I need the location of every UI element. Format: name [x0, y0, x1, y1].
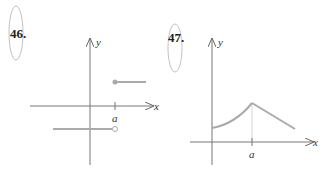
tick-label-a: a [249, 148, 255, 160]
closed-dot [113, 80, 118, 85]
problem-number-47: 47. [168, 30, 184, 45]
x-axis-label: x [153, 100, 159, 112]
graph-46: 46. y x a [9, 6, 159, 165]
y-axis-label: y [217, 36, 223, 48]
curve-left [212, 103, 252, 128]
line-right [252, 103, 295, 129]
y-axis-label: y [95, 36, 101, 48]
problem-number-46: 46. [10, 26, 26, 41]
diagram-canvas: 46. y x a 47. y x a [0, 0, 320, 175]
x-axis-label: x [312, 136, 318, 148]
open-circle [113, 127, 118, 132]
tick-label-a: a [112, 112, 118, 124]
graph-47: 47. y x a [168, 24, 318, 165]
